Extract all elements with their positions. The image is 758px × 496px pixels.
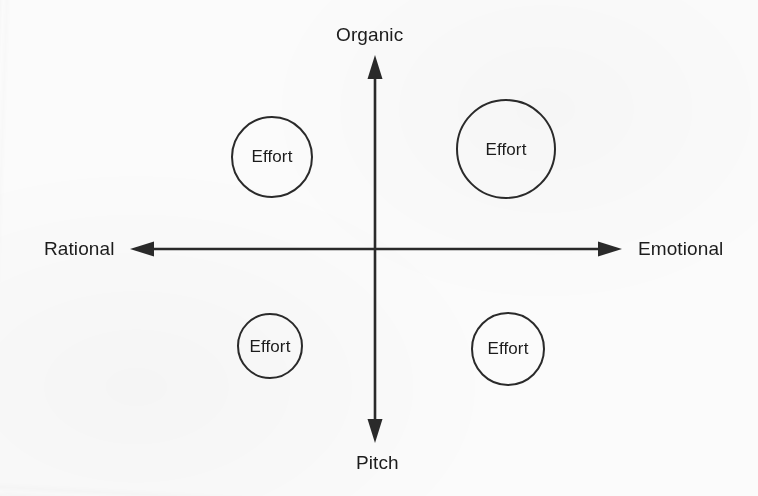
bubble-label-top-left: Effort — [252, 147, 293, 167]
axis-label-pitch: Pitch — [356, 452, 399, 474]
quadrant-diagram-canvas: Organic Pitch Rational Emotional Effort … — [0, 0, 758, 496]
axis-label-rational: Rational — [44, 238, 115, 260]
axis-label-organic: Organic — [336, 24, 403, 46]
emotional-arrowhead-icon — [598, 242, 622, 257]
bubble-label-bottom-right: Effort — [488, 339, 529, 359]
pitch-arrowhead-icon — [368, 419, 383, 443]
bubble-label-top-right: Effort — [486, 140, 527, 160]
axis-label-emotional: Emotional — [638, 238, 723, 260]
bubble-label-bottom-left: Effort — [250, 337, 291, 357]
organic-arrowhead-icon — [368, 55, 383, 79]
rational-arrowhead-icon — [130, 242, 154, 257]
